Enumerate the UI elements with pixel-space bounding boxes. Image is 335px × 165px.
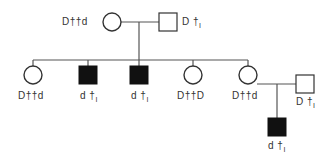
male-affected-III-1 bbox=[268, 118, 286, 136]
allele-1: d bbox=[131, 90, 137, 101]
genotype-label-I-1: D††d bbox=[62, 16, 88, 28]
female-unaffected-I-1 bbox=[103, 13, 121, 31]
allele-2: d bbox=[38, 90, 44, 101]
allele-1: D bbox=[182, 16, 190, 27]
allele-2: d bbox=[82, 16, 88, 27]
genotype-label-II-1: D††d bbox=[18, 90, 44, 102]
allele-1: d bbox=[268, 140, 274, 151]
genotype-label-II-6: D †I bbox=[296, 96, 316, 109]
female-unaffected-II-5 bbox=[239, 66, 257, 84]
hemizygous-mark: I bbox=[95, 96, 97, 103]
female-unaffected-II-1 bbox=[24, 66, 42, 84]
genotype-label-II-4: D††D bbox=[177, 90, 205, 102]
linkage-marks: †† bbox=[26, 90, 38, 101]
linkage-marks: †† bbox=[70, 16, 82, 27]
genotype-label-I-2: D †I bbox=[182, 16, 202, 29]
allele-2: d bbox=[252, 90, 258, 101]
hemizygous-mark: I bbox=[313, 102, 315, 109]
genotype-label-II-5: D††d bbox=[232, 90, 258, 102]
female-unaffected-II-4 bbox=[184, 66, 202, 84]
male-affected-II-2 bbox=[79, 66, 97, 84]
hemizygous-mark: I bbox=[283, 146, 285, 153]
allele-1: D bbox=[232, 90, 240, 101]
allele-1: D bbox=[18, 90, 26, 101]
male-affected-II-3 bbox=[130, 66, 148, 84]
hemizygous-mark: I bbox=[199, 22, 201, 29]
allele-1: D bbox=[177, 90, 185, 101]
linkage-marks: †† bbox=[240, 90, 252, 101]
allele-2: D bbox=[197, 90, 205, 101]
connector-lines bbox=[33, 22, 296, 118]
hemizygous-mark: I bbox=[146, 96, 148, 103]
genotype-label-II-3: d †I bbox=[131, 90, 149, 103]
genotype-label-II-2: d †I bbox=[80, 90, 98, 103]
allele-1: D bbox=[296, 96, 304, 107]
male-unaffected-II-6 bbox=[296, 75, 314, 93]
genotype-label-III-1: d †I bbox=[268, 140, 286, 153]
male-unaffected-I-2 bbox=[159, 13, 177, 31]
allele-1: d bbox=[80, 90, 86, 101]
linkage-marks: †† bbox=[185, 90, 197, 101]
allele-1: D bbox=[62, 16, 70, 27]
